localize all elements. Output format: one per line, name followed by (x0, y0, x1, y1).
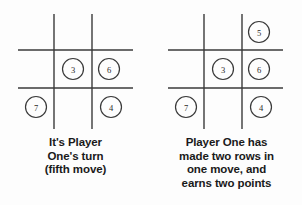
cell-value-middle-right: 6 (107, 65, 111, 75)
cell-value-top-right: 5 (257, 28, 261, 38)
panel-before-move: 3 6 7 4 It's Player One's turn (fifth mo… (0, 0, 151, 205)
caption-line: One's turn (0, 150, 151, 164)
caption-before-move: It's Player One's turn (fifth move) (0, 136, 151, 177)
caption-line: Player One has (151, 136, 302, 150)
caption-line: earns two points (151, 177, 302, 191)
caption-line: one move, and (151, 163, 302, 177)
cell-value-middle-center: 3 (221, 65, 225, 75)
caption-line: It's Player (0, 136, 151, 150)
cell-value-bottom-right: 4 (259, 103, 264, 113)
caption-line: made two rows in (151, 150, 302, 164)
tic-tac-toe-board-left: 3 6 7 4 (0, 0, 151, 132)
cell-value-bottom-left: 7 (34, 103, 38, 113)
caption-after-move: Player One has made two rows in one move… (151, 136, 302, 190)
caption-line: (fifth move) (0, 163, 151, 177)
cell-value-bottom-right: 4 (109, 103, 114, 113)
cell-value-bottom-left: 7 (184, 103, 188, 113)
cell-value-middle-center: 3 (71, 65, 75, 75)
cell-value-middle-right: 6 (257, 65, 261, 75)
figure-two-panel-tic-tac-toe: 3 6 7 4 It's Player One's turn (fifth mo… (0, 0, 302, 205)
tic-tac-toe-board-right: 5 3 6 7 4 (151, 0, 302, 132)
panel-after-move: 5 3 6 7 4 Player One has made two rows i… (151, 0, 302, 205)
